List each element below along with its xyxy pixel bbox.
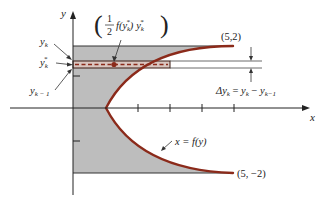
x-axis-label: x bbox=[309, 111, 315, 123]
pointer-y-k-star-arrowhead-icon bbox=[67, 63, 73, 67]
centroid-dot bbox=[111, 62, 116, 67]
label-y-k-star: yk* bbox=[39, 55, 49, 70]
y-axis-arrow-icon bbox=[70, 11, 76, 19]
delta-arrowhead-down-icon bbox=[249, 56, 253, 61]
pointer-y-k bbox=[54, 44, 70, 58]
point-label-5-2: (5,2) bbox=[221, 31, 242, 43]
label-y-k: yk bbox=[39, 36, 49, 49]
y-axis-label: y bbox=[60, 7, 66, 19]
svg-text:(: ( bbox=[94, 10, 103, 39]
point-label-5-neg2: (5, −2) bbox=[237, 168, 266, 180]
curve-label: x = f(y) bbox=[174, 136, 207, 148]
x-axis-arrow-icon bbox=[302, 105, 310, 111]
svg-text:f(yk*)yk*: f(yk*)yk* bbox=[116, 18, 145, 33]
svg-text:2: 2 bbox=[107, 26, 112, 37]
label-y-k-minus-1: yk − 1 bbox=[29, 85, 50, 98]
svg-text:1: 1 bbox=[107, 13, 112, 24]
delta-arrowhead-up-icon bbox=[249, 68, 253, 73]
diagram-canvas: y x Δyk = yk − yk−1 (5,2) (5, −2) x = f(… bbox=[0, 0, 324, 205]
delta-y-label: Δyk = yk − yk−1 bbox=[215, 85, 276, 98]
svg-text:): ) bbox=[160, 10, 169, 39]
pointer-y-k-minus-1 bbox=[55, 71, 70, 90]
centroid-label: ( 1 2 f(yk*)yk* ) bbox=[94, 10, 169, 39]
